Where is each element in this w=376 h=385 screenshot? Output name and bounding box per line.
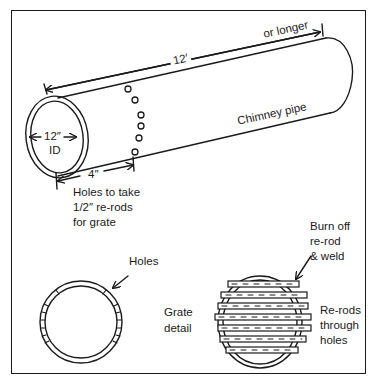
- hole-offset-label: 4″: [88, 167, 98, 182]
- grate-detail: [215, 256, 311, 368]
- rerods-line1: Re-rods: [320, 303, 361, 318]
- holes-note-line1: Holes to take: [73, 185, 140, 200]
- rerods-line3: holes: [320, 333, 348, 348]
- holes-note-line2: 1/2″ re-rods: [73, 200, 133, 215]
- holes-note-line3: for grate: [73, 215, 116, 230]
- burn-off-line2: re-rod: [310, 234, 341, 249]
- burn-off-line1: Burn off: [310, 219, 350, 234]
- grate-detail-line1: Grate: [164, 305, 193, 320]
- burn-off-line3: & weld: [310, 249, 345, 264]
- inner-diameter-unit: ID: [49, 143, 61, 158]
- holes-label: Holes: [129, 254, 158, 269]
- grate-detail-line2: detail: [164, 321, 192, 336]
- holes-cross-section: [40, 276, 128, 363]
- hole-column: [125, 86, 144, 155]
- rerods-line2: through: [320, 318, 359, 333]
- inner-diameter-value: 12″: [44, 129, 61, 144]
